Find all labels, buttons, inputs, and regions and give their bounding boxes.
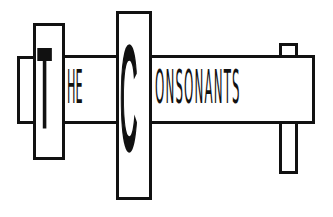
logo-text-onsonants: ONSONANTS xyxy=(155,66,241,112)
logo-text-he: HE xyxy=(67,66,83,112)
logo-initial-t: T xyxy=(37,30,52,146)
logo-initial-c: C xyxy=(120,27,137,171)
